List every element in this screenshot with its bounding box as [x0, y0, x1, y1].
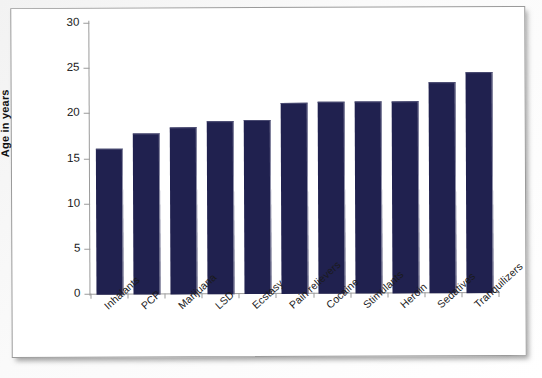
x-axis-ticks — [11, 7, 524, 9]
y-axis-ticks: 051015202530 — [11, 7, 524, 9]
x-tick — [165, 293, 166, 298]
bar — [355, 102, 383, 294]
x-tick — [90, 294, 91, 299]
scanned-page: Age in years 051015202530 InhalantsPCPMa… — [0, 0, 542, 378]
bar — [392, 101, 420, 294]
x-tick — [239, 293, 240, 298]
y-tick-label: 30 — [51, 17, 79, 28]
y-tick-label: 10 — [52, 197, 80, 208]
x-tick — [498, 292, 499, 297]
bar — [169, 127, 197, 294]
x-axis-labels: InhalantsPCPMarijuanaLSDEcstasyPain reli… — [11, 7, 524, 9]
bar — [132, 134, 160, 295]
bar — [95, 148, 123, 295]
bar-chart: Age in years 051015202530 InhalantsPCPMa… — [11, 7, 526, 357]
y-tick-label: 5 — [52, 243, 80, 254]
bar — [244, 120, 272, 295]
bar-series — [89, 19, 498, 295]
bar — [466, 72, 494, 294]
y-tick-label: 15 — [52, 152, 80, 163]
bar — [429, 82, 457, 294]
y-tick-label: 25 — [51, 62, 79, 73]
y-tick-label: 0 — [52, 288, 80, 299]
bar — [281, 103, 309, 294]
bar — [207, 122, 235, 295]
y-axis-title: Age in years — [0, 89, 11, 157]
y-tick-label: 20 — [52, 107, 80, 118]
chart-frame: Age in years 051015202530 InhalantsPCPMa… — [10, 6, 527, 358]
